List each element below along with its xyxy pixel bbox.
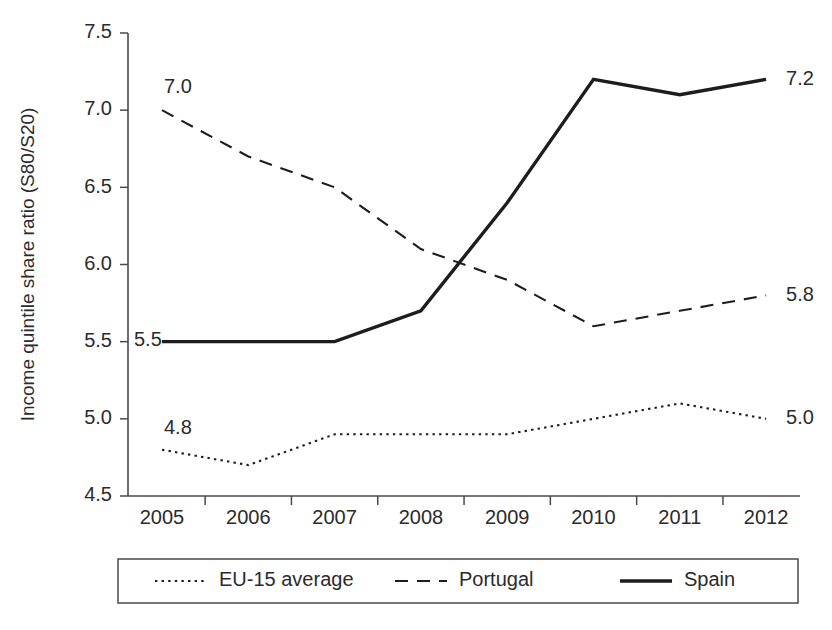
y-axis-tick-label: 7.5 [84, 20, 112, 42]
series-line-eu-15-average [162, 403, 766, 465]
data-label-start: 5.5 [134, 328, 162, 350]
y-axis-tick-label: 6.0 [84, 252, 112, 274]
legend-item-label: Portugal [459, 568, 534, 590]
legend-item-label: Spain [684, 568, 735, 590]
x-axis-tick-label: 2008 [399, 506, 444, 528]
data-label-start: 4.8 [164, 416, 192, 438]
x-axis-tick-label: 2007 [312, 506, 357, 528]
data-label-end: 5.0 [786, 406, 814, 428]
series-line-portugal [162, 110, 766, 326]
x-axis-tick-label: 2012 [744, 506, 789, 528]
legend-item-label: EU-15 average [219, 568, 354, 590]
x-axis-tick-label: 2005 [140, 506, 185, 528]
y-axis-title: Income quintile share ratio (S80/S20) [17, 108, 38, 422]
x-axis-tick-label: 2009 [485, 506, 530, 528]
data-label-end: 5.8 [786, 283, 814, 305]
y-axis-tick-label: 7.0 [84, 97, 112, 119]
y-axis-tick-label: 5.0 [84, 406, 112, 428]
chart-figure: 4.55.05.56.06.57.07.52005200620072008200… [0, 0, 832, 630]
y-axis-tick-label: 4.5 [84, 483, 112, 505]
series-line-spain [162, 79, 766, 341]
line-chart: 4.55.05.56.06.57.07.52005200620072008200… [0, 0, 832, 630]
y-axis-tick-label: 6.5 [84, 175, 112, 197]
x-axis-tick-label: 2006 [226, 506, 271, 528]
x-axis-tick-label: 2010 [571, 506, 616, 528]
data-label-start: 7.0 [164, 75, 192, 97]
y-axis-tick-label: 5.5 [84, 329, 112, 351]
x-axis-tick-label: 2011 [658, 506, 701, 528]
data-label-end: 7.2 [786, 67, 814, 89]
